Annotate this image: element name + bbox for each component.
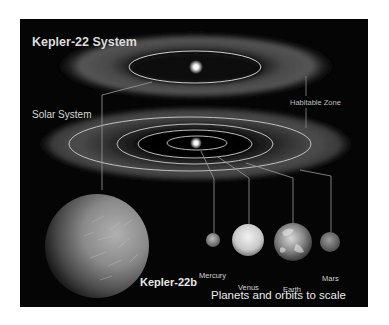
earth-planet bbox=[274, 223, 312, 261]
kepler-22b-planet bbox=[45, 194, 149, 298]
sun-icon bbox=[190, 137, 202, 149]
mars-planet bbox=[320, 232, 340, 252]
caption: Planets and orbits to scale bbox=[211, 289, 346, 301]
mars-label: Mars bbox=[322, 274, 339, 283]
mercury-planet bbox=[206, 233, 220, 247]
diagram-graphics bbox=[20, 19, 368, 307]
habitable-zone-label: Habitable Zone bbox=[290, 98, 341, 107]
kepler-22b-label: Kepler-22b bbox=[140, 276, 197, 288]
solar-system-label: Solar System bbox=[32, 109, 91, 120]
mercury-label: Mercury bbox=[199, 271, 226, 280]
venus-planet bbox=[232, 224, 264, 256]
kepler-22-star-icon bbox=[189, 60, 203, 74]
diagram-frame: Kepler-22 System Solar System Habitable … bbox=[20, 19, 368, 307]
mars-leader-line bbox=[300, 170, 331, 232]
system-title: Kepler-22 System bbox=[32, 35, 137, 49]
